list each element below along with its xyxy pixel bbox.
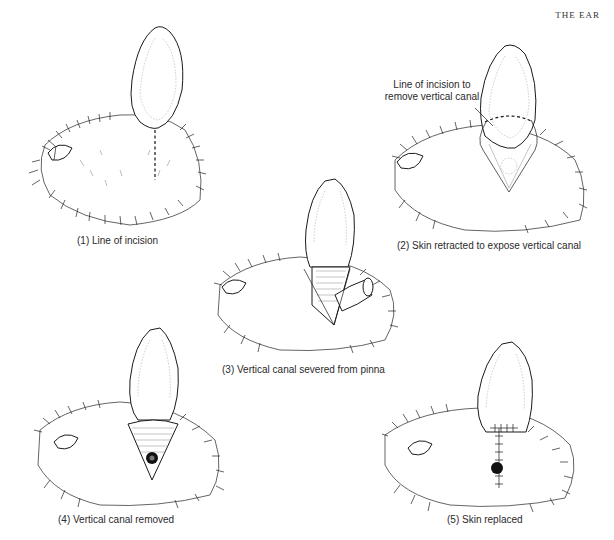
figure-4 <box>20 320 230 510</box>
figure-2-caption: (2) Skin retracted to expose vertical ca… <box>397 240 581 251</box>
figure-2-callout: Line of incision to remove vertical cana… <box>377 79 487 103</box>
dog-head-illustration-4 <box>20 320 230 510</box>
figure-1 <box>10 20 210 250</box>
dog-head-illustration-2 <box>375 40 614 230</box>
callout-line-1: Line of incision to <box>377 79 487 91</box>
running-head: THE EAR <box>555 10 600 20</box>
figure-5-caption: (5) Skin replaced <box>447 514 523 525</box>
figure-5 <box>380 320 614 510</box>
figure-1-caption: (1) Line of incision <box>77 235 158 246</box>
callout-line-2: remove vertical canal <box>377 91 487 103</box>
dog-head-illustration-1 <box>10 20 210 250</box>
figure-2 <box>375 40 614 230</box>
dog-head-illustration-3 <box>200 175 410 355</box>
figure-4-caption: (4) Vertical canal removed <box>58 514 174 525</box>
figure-3-caption: (3) Vertical canal severed from pinna <box>222 364 385 375</box>
figure-3 <box>200 175 410 355</box>
dog-head-illustration-5 <box>380 320 614 510</box>
